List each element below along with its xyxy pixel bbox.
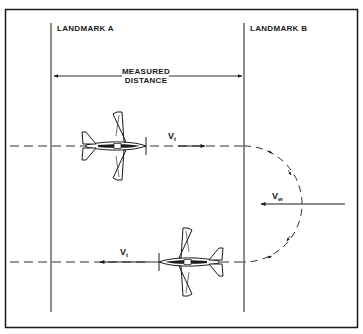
landmark-a-label: LANDMARK A (57, 24, 114, 33)
turn-arrow-1 (268, 151, 272, 153)
aircraft-top (82, 112, 146, 180)
measured-distance-line1: MEASURED (118, 67, 174, 76)
measured-distance-label: MEASURED DISTANCE (118, 67, 174, 85)
measured-distance-line2: DISTANCE (118, 76, 174, 85)
landmark-b-label: LANDMARK B (250, 24, 307, 33)
diagram-canvas (0, 0, 363, 334)
vt-bottom-label: Vt (120, 247, 128, 260)
vw-label: Vw (272, 191, 283, 204)
turn-arrow-3 (287, 236, 290, 241)
vt-top-label: Vt (168, 131, 176, 144)
aircraft-bottom (159, 228, 223, 296)
speed-course-diagram: LANDMARK A LANDMARK B MEASURED DISTANCE … (0, 0, 363, 334)
turn-arrow-2 (288, 170, 291, 175)
